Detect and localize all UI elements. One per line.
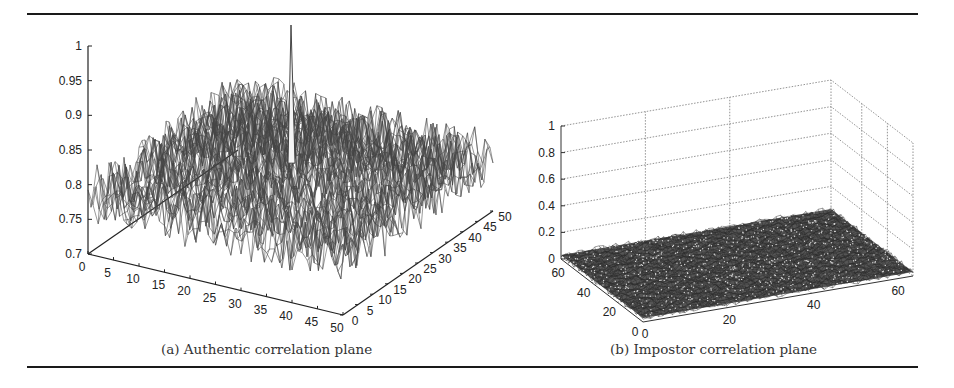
x-tick-label: 40 xyxy=(807,298,821,312)
figure-plots: 0.70.750.80.850.90.951051015202530354045… xyxy=(0,0,954,388)
z-tick-label: 0.85 xyxy=(59,143,83,157)
y-tick-label: 40 xyxy=(468,231,482,245)
z-tick-label: 0.8 xyxy=(538,146,555,160)
z-tick-label: 0.95 xyxy=(59,74,83,88)
x-tick-label: 40 xyxy=(279,309,293,323)
x-tick-label: 60 xyxy=(891,284,905,298)
caption-impostor: (b) Impostor correlation plane xyxy=(610,341,817,357)
y-tick-label: 20 xyxy=(408,272,422,286)
y-tick-label: 30 xyxy=(438,252,452,266)
z-tick-label: 1 xyxy=(75,39,82,53)
z-tick-label: 0.75 xyxy=(59,212,83,226)
x-tick-label: 35 xyxy=(254,303,268,317)
z-tick-label: 0.6 xyxy=(538,172,555,186)
y-tick-label: 0 xyxy=(632,325,639,339)
x-tick-label: 20 xyxy=(177,284,191,298)
y-tick-label: 5 xyxy=(367,304,374,318)
y-tick-label: 35 xyxy=(453,241,467,255)
z-gridline xyxy=(561,107,913,170)
x-tick-label: 30 xyxy=(228,297,242,311)
x-tick-label: 5 xyxy=(104,266,111,280)
y-tick-label: 10 xyxy=(378,293,392,307)
x-tick-label: 10 xyxy=(126,272,140,286)
y-tick-label: 25 xyxy=(423,262,437,276)
y-tick-label: 60 xyxy=(551,266,565,280)
caption-authentic: (a) Authentic correlation plane xyxy=(161,341,372,357)
x-tick-label: 45 xyxy=(305,315,319,329)
x-tick-label: 20 xyxy=(723,313,737,327)
impostor-correlation-surface-plot: 00.20.40.60.8102040600204060 xyxy=(538,80,913,341)
z-gridline xyxy=(561,80,913,143)
y-tick-label: 45 xyxy=(483,220,497,234)
y-tick-label: 50 xyxy=(498,210,512,224)
z-tick-label: 0.4 xyxy=(538,199,555,213)
x-tick-label: 50 xyxy=(330,321,344,335)
x-tick-label: 15 xyxy=(152,278,166,292)
x-tick-label: 0 xyxy=(642,327,649,341)
z-tick-label: 0 xyxy=(548,252,555,266)
z-gridline xyxy=(561,160,913,223)
y-tick-label: 15 xyxy=(393,283,407,297)
authentic-correlation-surface-plot: 0.70.750.80.850.90.951051015202530354045… xyxy=(59,25,512,335)
z-tick-label: 1 xyxy=(548,119,555,133)
y-tick-label: 40 xyxy=(577,286,591,300)
z-tick-label: 0.9 xyxy=(65,108,82,122)
z-tick-label: 0.8 xyxy=(65,178,82,192)
z-tick-label: 0.7 xyxy=(65,247,82,261)
x-tick-label: 25 xyxy=(203,291,217,305)
y-tick-label: 20 xyxy=(603,305,617,319)
z-gridline xyxy=(561,133,913,196)
y-tick-label: 0 xyxy=(352,314,359,328)
x-tick-label: 0 xyxy=(79,260,86,274)
z-tick-label: 0.2 xyxy=(538,225,555,239)
